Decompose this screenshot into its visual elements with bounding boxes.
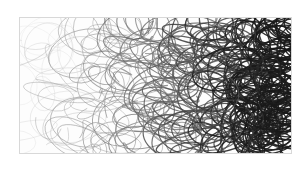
scribble-canvas: [20, 18, 291, 153]
scribble-loop: [43, 22, 125, 85]
scribble-artwork: [19, 17, 292, 154]
scribble-stroke: [79, 144, 101, 153]
scribble-stroke: [79, 120, 92, 138]
scribble-loop: [20, 130, 36, 153]
scribble-loop: [20, 18, 68, 78]
